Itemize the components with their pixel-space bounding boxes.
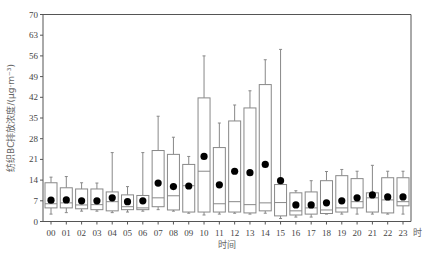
box-item [152,116,164,209]
mean-marker [369,191,376,198]
box-item [91,183,103,211]
iqr-box [320,181,332,214]
x-tick-label: 12 [230,228,239,238]
x-tick-label: 11 [215,228,224,238]
box-item [60,177,72,213]
mean-marker [292,201,299,208]
y-tick-label: 49 [29,72,39,82]
box-item [45,177,57,214]
x-tick-label: 14 [261,228,271,238]
box-item [198,56,210,215]
x-tick-label: 10 [200,228,210,238]
mean-marker [353,194,360,201]
iqr-box [259,85,271,211]
x-axis-title: 时间 [218,239,236,250]
x-tick-label: 04 [108,228,118,238]
box-item [137,153,149,212]
x-tick-label: 15 [276,228,286,238]
box-item [106,153,118,213]
box-item [167,137,179,211]
box-item [76,183,88,211]
x-tick-label: 02 [77,228,86,238]
iqr-box [351,179,363,208]
box-item [290,191,302,217]
mean-marker [78,197,85,204]
box-item [183,156,195,213]
x-tick-label: 05 [123,228,133,238]
iqr-box [229,121,241,212]
mean-marker [246,169,253,176]
x-axis: 0001020304050607080910111213141516171819… [43,222,411,238]
y-tick-label: 56 [29,51,39,61]
mean-marker [139,197,146,204]
mean-marker [338,197,345,204]
mean-marker [216,181,223,188]
y-axis-title: 纺织BC排放浓度/(μg·m⁻³) [5,64,16,172]
y-tick-label: 0 [34,217,39,227]
iqr-box [244,108,256,213]
box-item [213,123,225,214]
iqr-box [336,176,348,212]
mean-marker [262,161,269,168]
box-item [259,60,271,213]
x-tick-label: 08 [169,228,179,238]
mean-marker [399,193,406,200]
box-item [244,91,256,214]
box-item [397,171,409,214]
y-tick-label: 21 [29,154,38,164]
mean-marker [155,179,162,186]
y-tick-label: 7 [34,196,39,206]
y-tick-label: 28 [29,134,39,144]
mean-marker [124,198,131,205]
x-tick-label: 01 [62,228,71,238]
iqr-box [213,148,225,212]
x-axis-unit: 时 [413,227,422,238]
mean-marker [231,168,238,175]
box-item [275,49,287,218]
mean-marker [277,177,284,184]
mean-marker [308,201,315,208]
iqr-box [275,185,287,216]
mean-marker [185,182,192,189]
box-item [229,105,241,213]
x-tick-label: 18 [322,228,332,238]
mean-marker [63,196,70,203]
mean-marker [170,183,177,190]
box-item [122,187,134,212]
box-item [336,169,348,214]
box-item [366,165,378,214]
y-tick-label: 70 [29,10,39,20]
x-tick-label: 13 [245,228,255,238]
box-item [351,171,363,214]
mean-marker [93,197,100,204]
x-tick-label: 09 [184,228,194,238]
y-tick-label: 35 [29,113,39,123]
box-series [45,49,409,218]
box-item [305,181,317,217]
x-tick-label: 00 [47,228,57,238]
x-tick-label: 03 [92,228,102,238]
mean-marker [323,199,330,206]
mean-marker [384,193,391,200]
x-tick-label: 22 [383,228,392,238]
iqr-box [167,154,179,210]
box-item [382,171,394,214]
x-tick-label: 20 [353,228,363,238]
y-tick-label: 63 [29,30,39,40]
x-tick-label: 23 [399,228,409,238]
y-tick-label: 42 [29,92,38,102]
mean-marker [47,197,54,204]
x-tick-label: 07 [154,228,164,238]
x-tick-label: 17 [307,228,317,238]
x-tick-label: 06 [138,228,148,238]
y-tick-label: 14 [29,175,39,185]
x-tick-label: 21 [368,228,377,238]
mean-marker [109,194,116,201]
box-plot-chart: 07142128354249566370 0001020304050607080… [0,0,431,259]
x-tick-label: 19 [337,228,347,238]
box-item [320,172,332,215]
x-tick-label: 16 [291,228,301,238]
mean-marker [200,153,207,160]
